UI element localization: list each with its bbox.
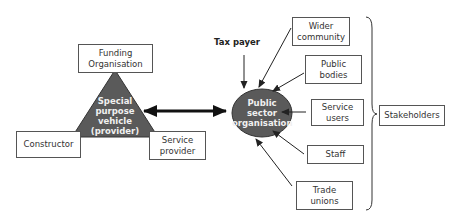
spv-line-1: Special bbox=[86, 96, 144, 106]
arrow-wider-community bbox=[259, 28, 291, 87]
ps-line-1: Public bbox=[232, 98, 292, 108]
arrow-trade-unions bbox=[256, 139, 292, 186]
arrow-staff bbox=[273, 131, 304, 154]
constructor-box: Constructor bbox=[16, 131, 81, 158]
stakeholders-brace bbox=[366, 17, 377, 210]
public-bodies-box: Public bodies bbox=[305, 55, 362, 84]
trade-unions-box: Trade unions bbox=[296, 181, 353, 210]
spv-label: Special purpose vehicle (provider) bbox=[86, 96, 144, 136]
arrow-public-bodies bbox=[273, 73, 304, 91]
spv-line-2: purpose bbox=[86, 106, 144, 116]
wider-community-box: Wider community bbox=[292, 17, 350, 46]
stakeholders-box: Stakeholders bbox=[379, 105, 445, 126]
tax-payer-label: Tax payer bbox=[214, 37, 260, 47]
funding-organisation-box: Funding Organisation bbox=[78, 44, 153, 73]
spv-line-3: vehicle bbox=[86, 116, 144, 126]
staff-box: Staff bbox=[307, 145, 364, 164]
ps-line-3: organisation bbox=[232, 118, 292, 128]
public-sector-label: Public sector organisation bbox=[232, 98, 292, 128]
ps-line-2: sector bbox=[232, 108, 292, 118]
service-users-box: Service users bbox=[311, 99, 364, 126]
service-provider-box: Service provider bbox=[149, 131, 206, 160]
spv-line-4: (provider) bbox=[86, 126, 144, 136]
